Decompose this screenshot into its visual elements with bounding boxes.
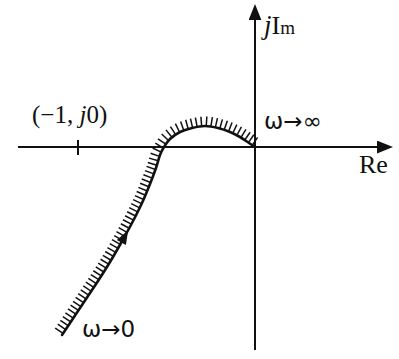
locus-hatch-tick (211, 117, 213, 126)
locus-hatch-tick (190, 119, 192, 128)
locus-hatch-tick (237, 127, 242, 135)
locus-hatch-tick (151, 153, 160, 156)
locus-hatch-tick (135, 196, 144, 200)
omega-infinity-label: ω→∞ (264, 110, 322, 133)
locus-hatch-tick (137, 192, 146, 196)
locus-hatch-tick (181, 121, 184, 130)
locus-hatch-tick (86, 282, 94, 287)
locus-hatch-tick (88, 278, 96, 283)
locus-hatch-tick (166, 130, 172, 137)
locus-hatch-tick (110, 244, 118, 249)
locus-hatch-tick (206, 117, 207, 126)
locus-hatch-tick (76, 297, 84, 302)
locus-hatch-tick (245, 132, 250, 140)
locus-hatch-tick (129, 208, 138, 212)
locus-hatch-tick (121, 224, 129, 229)
nyquist-plot-canvas (0, 0, 399, 359)
locus-hatch-tick (143, 175, 152, 178)
locus-hatch-tick (201, 117, 202, 126)
imaginary-axis-label-I: I (272, 11, 281, 40)
critical-point-suffix: 0) (86, 101, 107, 128)
locus-hatch-tick (233, 125, 237, 134)
locus-hatch-tick (162, 134, 169, 141)
nyquist-figure: jIm Re (−1, j0) ω→∞ ω→0 (0, 0, 399, 359)
locus-hatch-tick (249, 135, 254, 143)
locus-hatch-tick (220, 119, 223, 128)
locus-hatch-tick (153, 148, 162, 152)
locus-hatch-tick (65, 313, 73, 318)
locus-hatch-tick (170, 127, 175, 135)
locus-hatch-tick (158, 139, 166, 144)
locus-hatch-tick (148, 162, 157, 165)
locus-hatch-tick (215, 118, 217, 127)
imaginary-axis-label: jIm (264, 12, 295, 39)
locus-hatch-tick (147, 166, 156, 169)
locus-hatch-tick (98, 263, 106, 268)
locus-hatch-tick (138, 187, 147, 191)
locus-hatch-tick (229, 123, 233, 132)
locus-hatch-tick (55, 328, 63, 333)
locus-hatch-tick (175, 124, 179, 133)
locus-hatch-tick (58, 324, 66, 329)
locus-hatch-tick (125, 216, 133, 220)
locus-hatch-tick (241, 129, 246, 137)
locus-hatch-tick (81, 290, 89, 295)
locus-hatch-tick (186, 120, 188, 129)
locus-hatch-tick (133, 200, 142, 204)
locus-hatch-tick (145, 171, 154, 174)
locus-hatch-tick (105, 252, 113, 257)
locus-hatch-tick (107, 248, 115, 253)
locus-hatch-tick (142, 179, 151, 182)
locus-hatch-tick (96, 267, 104, 272)
locus-hatch-tick (119, 228, 127, 233)
locus-hatch-tick (73, 301, 81, 306)
locus-hatch-tick (149, 158, 158, 161)
real-axis-label: Re (359, 152, 388, 178)
critical-point-prefix: (−1, (32, 101, 79, 128)
nyquist-locus-curve (62, 126, 255, 335)
imaginary-axis-label-m: m (280, 17, 295, 38)
critical-point-label: (−1, j0) (32, 102, 107, 127)
locus-hatch-tick (71, 305, 79, 310)
locus-hatch-tick (101, 259, 109, 264)
locus-hatch-tick (224, 121, 227, 130)
locus-hatch-tick (131, 204, 140, 208)
locus-hatch-tick (103, 255, 111, 260)
locus-hatch-tick (91, 275, 99, 280)
locus-hatch-tick (78, 294, 86, 299)
locus-hatch-tick (123, 220, 131, 224)
locus-hatch-tick (140, 183, 149, 187)
locus-hatch-tick (195, 118, 197, 127)
locus-hatch-tick (93, 271, 101, 276)
imaginary-axis-label-j: j (264, 10, 272, 40)
omega-zero-label: ω→0 (82, 318, 135, 341)
locus-hatch-tick (68, 309, 76, 314)
locus-hatch-tick (127, 212, 135, 216)
locus-hatch-tick (83, 286, 91, 291)
locus-hatch-tick (63, 317, 71, 322)
locus-hatch-tick (60, 320, 68, 325)
